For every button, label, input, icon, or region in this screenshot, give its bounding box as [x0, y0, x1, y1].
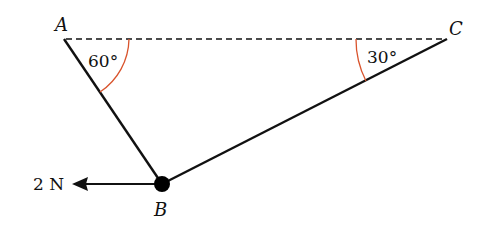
string-bc	[162, 39, 447, 184]
arrowhead-icon	[72, 177, 88, 191]
diagram-svg: A C B 60° 30° 2 N	[0, 0, 486, 229]
angle-label-a: 60°	[88, 51, 118, 71]
force-diagram: A C B 60° 30° 2 N	[0, 0, 486, 229]
label-a: A	[53, 14, 68, 35]
particle-b	[154, 176, 170, 192]
angle-label-c: 30°	[367, 47, 397, 67]
label-c: C	[449, 18, 463, 39]
angle-arc-c	[356, 39, 366, 81]
force-label: 2 N	[33, 174, 64, 194]
label-b: B	[153, 199, 167, 220]
